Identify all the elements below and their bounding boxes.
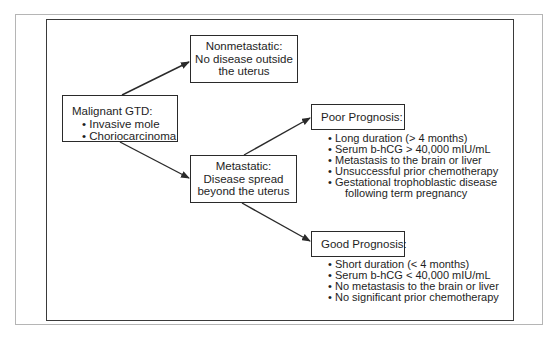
malignant-gtd-title: Malignant GTD: <box>72 105 177 118</box>
poor-prognosis-title: Poor Prognosis: <box>321 111 404 124</box>
metastatic-title: Metastatic: <box>216 160 272 173</box>
nonmetastatic-desc-line2: the uterus <box>218 65 269 78</box>
nonmetastatic-desc-line1: No disease outside <box>195 53 293 66</box>
good-prognosis-box: Good Prognosis: <box>311 231 405 257</box>
bullet-icon: • <box>82 118 86 130</box>
list-item: •Gestational trophoblastic diseasefollow… <box>328 177 498 199</box>
gtd-item-choriocarcinoma: • Choriocarcinoma <box>72 130 177 143</box>
good-prognosis-title: Good Prognosis: <box>321 238 404 251</box>
metastatic-box: Metastatic: Disease spread beyond the ut… <box>190 155 297 203</box>
malignant-gtd-box: Malignant GTD: • Invasive mole • Chorioc… <box>62 95 178 142</box>
metastatic-desc-line1: Disease spread <box>204 173 284 186</box>
poor-prognosis-criteria: •Long duration (> 4 months) •Serum b-hCG… <box>328 133 498 199</box>
good-prognosis-criteria: •Short duration (< 4 months) •Serum b-hC… <box>328 259 499 303</box>
metastatic-desc-line2: beyond the uterus <box>197 185 289 198</box>
bullet-icon: • <box>82 130 86 142</box>
nonmetastatic-box: Nonmetastatic: No disease outside the ut… <box>190 35 298 83</box>
nonmetastatic-title: Nonmetastatic: <box>206 40 283 53</box>
bullet-icon: • <box>328 177 332 188</box>
list-item: •No significant prior chemotherapy <box>328 292 499 303</box>
bullet-icon: • <box>328 292 332 303</box>
poor-prognosis-box: Poor Prognosis: <box>311 104 405 130</box>
list-item-continuation: following term pregnancy <box>335 188 498 199</box>
gtd-item-invasive-mole: • Invasive mole <box>72 118 177 131</box>
